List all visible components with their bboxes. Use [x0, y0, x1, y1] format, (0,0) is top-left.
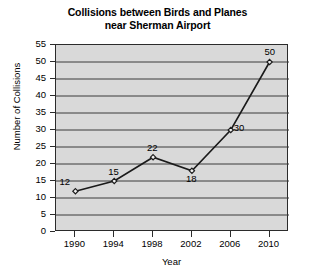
- data-point-label: 50: [265, 47, 276, 57]
- y-tick-label: 50: [20, 56, 46, 66]
- y-tick-mark: [50, 78, 55, 79]
- y-tick-label: 25: [20, 141, 46, 151]
- data-point-label: 15: [108, 167, 119, 177]
- data-point-label: 18: [186, 174, 197, 184]
- y-tick-mark: [50, 112, 55, 113]
- x-tick-mark: [269, 231, 270, 237]
- y-tick-label: 15: [20, 175, 46, 185]
- x-tick-label: 2002: [171, 239, 211, 249]
- gridlines: [56, 62, 289, 215]
- y-tick-mark: [50, 146, 55, 147]
- x-tick-mark: [191, 231, 192, 237]
- x-tick-mark: [230, 231, 231, 237]
- data-point-label: 12: [59, 177, 70, 187]
- y-tick-label: 40: [20, 90, 46, 100]
- y-tick-label: 0: [20, 226, 46, 236]
- y-tick-mark: [50, 231, 55, 232]
- y-tick-mark: [50, 214, 55, 215]
- y-tick-mark: [50, 163, 55, 164]
- x-tick-label: 2006: [210, 239, 250, 249]
- x-tick-label: 1998: [132, 239, 172, 249]
- y-tick-label: 35: [20, 107, 46, 117]
- x-axis-title: Year: [55, 256, 288, 267]
- data-point-label: 22: [147, 143, 158, 153]
- x-tick-mark: [152, 231, 153, 237]
- x-tick-label: 1990: [54, 239, 94, 249]
- y-tick-mark: [50, 44, 55, 45]
- x-tick-mark: [113, 231, 114, 237]
- y-tick-label: 30: [20, 124, 46, 134]
- x-tick-mark: [74, 231, 75, 237]
- y-tick-mark: [50, 129, 55, 130]
- y-tick-label: 20: [20, 158, 46, 168]
- chart-title-line-2: near Sherman Airport: [20, 19, 295, 32]
- plot-area: [55, 44, 288, 231]
- y-tick-mark: [50, 61, 55, 62]
- y-tick-label: 5: [20, 209, 46, 219]
- x-tick-label: 2010: [249, 239, 289, 249]
- y-tick-mark: [50, 95, 55, 96]
- data-point-label: 30: [234, 123, 245, 133]
- chart-title-line-1: Collisions between Birds and Planes: [20, 6, 295, 19]
- y-tick-label: 10: [20, 192, 46, 202]
- x-tick-label: 1994: [93, 239, 133, 249]
- y-tick-label: 45: [20, 73, 46, 83]
- y-tick-label: 55: [20, 39, 46, 49]
- y-tick-mark: [50, 180, 55, 181]
- data-point-marker: [73, 189, 78, 194]
- chart-plot-svg: [56, 45, 289, 232]
- y-tick-mark: [50, 197, 55, 198]
- chart-title: Collisions between Birds and Planes near…: [20, 6, 295, 32]
- chart-figure: Collisions between Birds and Planes near…: [0, 0, 310, 277]
